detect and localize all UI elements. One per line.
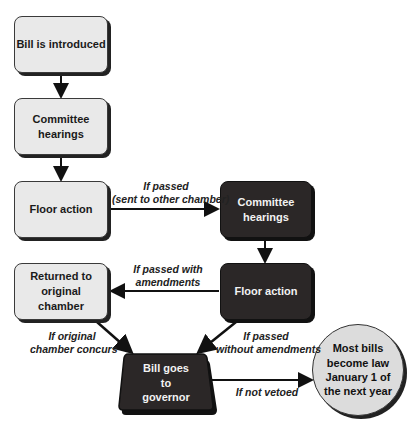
node-label: Bill goes to governor — [118, 361, 214, 406]
edge-label-line: If original — [30, 330, 114, 343]
node-returned-original-chamber: Returned to original chamber — [14, 263, 108, 320]
edge-label-line: If passed — [112, 180, 220, 193]
edge-label-line: without amendments — [216, 343, 316, 356]
node-committee-hearings-other: Committee hearings — [220, 181, 312, 238]
node-label: Floor action — [235, 284, 298, 299]
edge-label-line: If not vetoed — [232, 386, 302, 399]
node-label: Bill is introduced — [16, 37, 105, 52]
node-becomes-law: Most bills become law January 1 of the n… — [312, 324, 404, 416]
edge-label-line: If passed with — [122, 263, 214, 276]
node-bill-introduced: Bill is introduced — [14, 16, 108, 73]
node-label: Committee hearings — [237, 195, 295, 225]
edge-label-line: amendments — [122, 276, 214, 289]
edge-label-with-amendments: If passed with amendments — [122, 263, 214, 289]
edge-label-without-amendments: If passed without amendments — [216, 330, 316, 356]
node-label: Committee hearings — [33, 112, 90, 142]
node-floor-action-other: Floor action — [220, 263, 312, 320]
edge-label-line: chamber concurs — [30, 343, 114, 356]
node-label: Returned to original chamber — [19, 269, 103, 314]
edge-label-not-vetoed: If not vetoed — [232, 386, 302, 399]
edge-label-sent-other-chamber: If passed (sent to other chamber) — [112, 180, 220, 206]
edge-label-original-concurs: If original chamber concurs — [30, 330, 114, 356]
edge-label-line: If passed — [216, 330, 316, 343]
node-label: Most bills become law January 1 of the n… — [321, 341, 395, 398]
node-committee-hearings-origin: Committee hearings — [14, 98, 108, 155]
edge-label-line: (sent to other chamber) — [112, 193, 220, 206]
node-floor-action-origin: Floor action — [14, 181, 108, 238]
node-bill-goes-to-governor: Bill goes to governor — [118, 353, 214, 413]
node-label: Floor action — [30, 202, 93, 217]
